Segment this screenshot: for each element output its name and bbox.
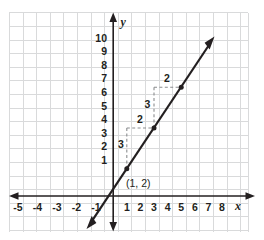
y-tick-9: 9 — [101, 45, 107, 57]
run-label-upper: 2 — [164, 72, 170, 84]
x-tick-1: 1 — [124, 201, 130, 213]
coordinate-plane-svg: 10 9 8 7 6 5 4 3 2 1 -5 -4 -3 -2 -1 1 2 … — [0, 0, 264, 240]
x-tick-neg2: -2 — [72, 201, 81, 213]
x-tick-2: 2 — [137, 201, 143, 213]
x-tick-neg5: -5 — [13, 201, 22, 213]
x-tick-8: 8 — [219, 201, 225, 213]
y-tick-5: 5 — [101, 100, 107, 112]
rise-label-upper: 3 — [145, 98, 151, 110]
y-tick-6: 6 — [101, 86, 107, 98]
y-tick-10: 10 — [95, 32, 107, 44]
rise-label-lower: 3 — [118, 138, 124, 150]
y-tick-8: 8 — [101, 59, 107, 71]
y-tick-4: 4 — [101, 113, 107, 125]
run-label-lower: 2 — [137, 113, 143, 125]
y-tick-2: 2 — [101, 140, 107, 152]
y-tick-7: 7 — [101, 72, 107, 84]
point-5-8 — [179, 85, 184, 90]
x-tick-4: 4 — [165, 201, 171, 213]
x-tick-3: 3 — [151, 201, 157, 213]
x-axis-label: x — [234, 199, 241, 213]
x-tick-5: 5 — [178, 201, 184, 213]
x-tick-neg3: -3 — [52, 201, 61, 213]
y-tick-3: 3 — [101, 127, 107, 139]
y-axis-label: y — [119, 15, 127, 29]
y-tick-1: 1 — [101, 154, 107, 166]
x-tick-6: 6 — [192, 201, 198, 213]
x-tick-neg4: -4 — [33, 201, 42, 213]
point-1-2 — [124, 166, 129, 171]
point-coordinate-label: (1, 2) — [126, 177, 151, 189]
x-tick-7: 7 — [205, 201, 211, 213]
x-tick-neg1: -1 — [91, 201, 100, 213]
graph-figure: 10 9 8 7 6 5 4 3 2 1 -5 -4 -3 -2 -1 1 2 … — [0, 0, 264, 240]
point-3-5 — [152, 126, 157, 131]
